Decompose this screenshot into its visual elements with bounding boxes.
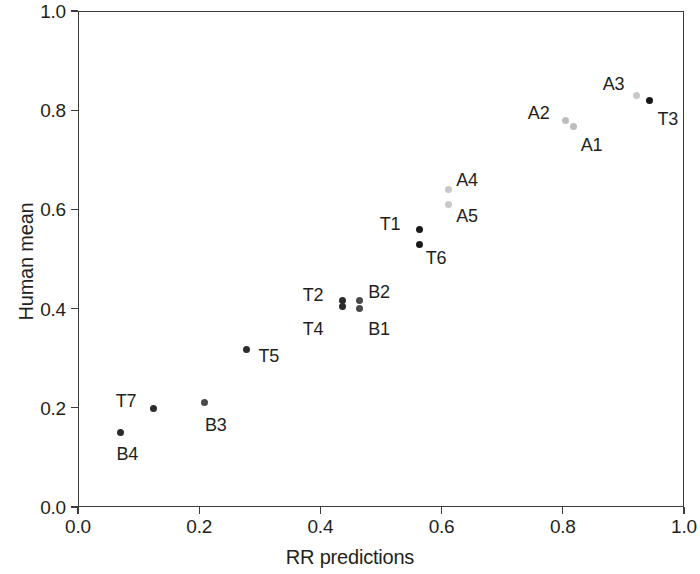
data-point-label: T2 — [303, 286, 324, 304]
data-point — [570, 123, 577, 130]
x-tick-label: 0.0 — [43, 517, 113, 536]
data-point — [150, 405, 157, 412]
data-point — [117, 429, 124, 436]
x-tick-label: 0.8 — [528, 517, 598, 536]
x-tick-label: 0.2 — [164, 517, 234, 536]
y-tick-mark — [71, 308, 78, 309]
x-tick-mark — [77, 507, 78, 514]
data-point — [201, 399, 208, 406]
y-axis-title: Human mean — [15, 12, 38, 512]
data-point — [633, 92, 640, 99]
data-point — [356, 305, 363, 312]
data-point-label: B2 — [368, 283, 390, 301]
data-point-label: A5 — [456, 207, 478, 225]
data-point — [562, 117, 569, 124]
x-tick-mark — [441, 507, 442, 514]
plot-area — [78, 11, 684, 507]
data-point-label: T7 — [116, 392, 137, 410]
x-tick-mark — [683, 507, 684, 514]
x-tick-mark — [320, 507, 321, 514]
y-tick-mark — [71, 110, 78, 111]
data-point-label: T4 — [303, 320, 324, 338]
data-point-label: B1 — [368, 320, 390, 338]
data-point-label: B4 — [116, 445, 138, 463]
y-tick-mark — [71, 209, 78, 210]
data-point-label: T1 — [380, 215, 401, 233]
data-point-label: T5 — [258, 347, 279, 365]
data-point-label: B3 — [205, 416, 227, 434]
x-tick-mark — [562, 507, 563, 514]
x-axis-title: RR predictions — [0, 546, 700, 569]
x-tick-label: 1.0 — [649, 517, 700, 536]
x-tick-label: 0.4 — [285, 517, 355, 536]
data-point-label: T3 — [657, 110, 678, 128]
y-tick-mark — [71, 506, 78, 507]
data-point-label: A2 — [528, 104, 550, 122]
y-tick-mark — [71, 407, 78, 408]
data-point-label: T6 — [426, 249, 447, 267]
data-point — [445, 186, 452, 193]
data-point-label: A3 — [603, 75, 625, 93]
scatter-chart-figure: 0.00.20.40.60.81.0 0.00.20.40.60.81.0 B4… — [0, 0, 700, 574]
y-tick-mark — [71, 10, 78, 11]
x-tick-label: 0.6 — [407, 517, 477, 536]
data-point-label: A4 — [456, 171, 478, 189]
data-point — [339, 303, 346, 310]
x-tick-mark — [199, 507, 200, 514]
data-point — [416, 241, 423, 248]
data-point-label: A1 — [581, 136, 603, 154]
data-point — [356, 297, 363, 304]
